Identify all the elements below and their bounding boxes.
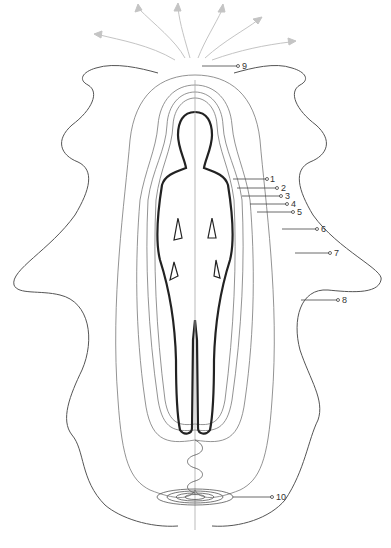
- outer-aura: [14, 65, 382, 526]
- label-1: 1: [270, 174, 275, 184]
- label-4: 4: [291, 199, 296, 209]
- label-8: 8: [342, 295, 347, 305]
- label-5: 5: [297, 207, 302, 217]
- label-10: 10: [276, 492, 286, 502]
- energy-arrows: [94, 3, 296, 60]
- label-3: 3: [285, 191, 290, 201]
- aura-diagram: [0, 0, 391, 548]
- label-6: 6: [321, 224, 326, 234]
- label-7: 7: [334, 248, 339, 258]
- label-9: 9: [242, 61, 247, 71]
- leader-lines: [202, 65, 340, 499]
